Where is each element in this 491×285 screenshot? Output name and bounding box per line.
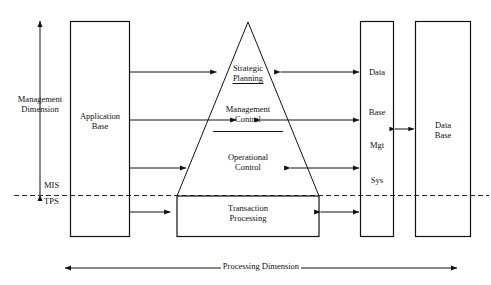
dbms-label-data: Data [361, 68, 393, 78]
tps-label: TPS [44, 197, 70, 207]
dbms-box [361, 22, 394, 237]
database-label: Data Base [416, 121, 470, 140]
pyramid-level-strategic-planning: Strategic Planning [213, 64, 283, 83]
pyramid-level-transaction-processing: Transaction Processing [208, 204, 288, 223]
dbms-label-mgt: Mgt [361, 141, 393, 151]
dbms-label-sys: Sys [361, 176, 393, 186]
pyramid-level-management-control: Management Control [208, 105, 288, 124]
pyramid-level-operational-control: Operational Control [208, 153, 288, 172]
diagram-canvas: Management Dimension MIS TPS Application… [0, 0, 491, 285]
dbms-label-base: Base [361, 108, 393, 118]
application-base-label: Application Base [70, 112, 130, 131]
diagram-vector-layer [0, 0, 491, 285]
management-dimension-label: Management Dimension [2, 95, 78, 114]
processing-dimension-label: Processing Dimension [221, 262, 301, 272]
mis-label: MIS [44, 181, 70, 191]
